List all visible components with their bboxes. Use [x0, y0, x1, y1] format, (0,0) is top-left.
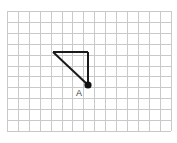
vertex-label-a: A: [76, 88, 82, 98]
geometry-figure: A: [0, 0, 177, 143]
figure-canvas: A: [0, 0, 177, 143]
vertex-dot-a: [84, 81, 91, 88]
